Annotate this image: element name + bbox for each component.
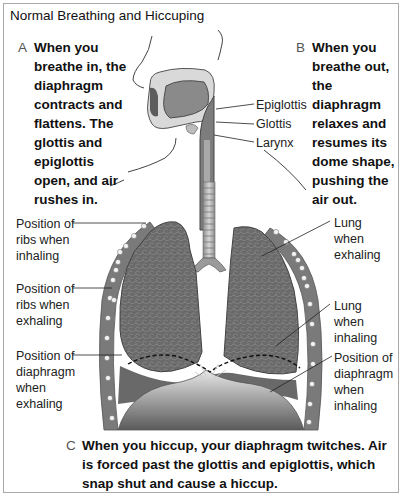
label-line: inhaling <box>334 330 377 346</box>
label-line: Position of <box>16 348 75 364</box>
label-line: inhaling <box>16 248 74 264</box>
label-line: when <box>334 314 377 330</box>
caption-b-line: breathe out, <box>312 57 403 76</box>
caption-a-line: contracts and <box>34 95 126 114</box>
caption-a-line: diaphragm <box>34 76 126 95</box>
label-line: Position of <box>16 281 74 297</box>
label-diaphragm-inhaling: Position of diaphragm when inhaling <box>334 350 393 414</box>
caption-b-line: pushing the <box>312 171 403 190</box>
label-line: inhaling <box>334 398 393 414</box>
label-line: Position of <box>16 216 74 232</box>
caption-b-line: relaxes and <box>312 114 403 133</box>
caption-a-line: flattens. The <box>34 114 126 133</box>
caption-a: A When you breathe in, the diaphragm con… <box>34 38 126 209</box>
label-line: ribs when <box>16 232 74 248</box>
caption-c-line: snap shut and cause a hiccup. <box>82 474 387 493</box>
label-line: diaphragm <box>16 364 75 380</box>
label-line: diaphragm <box>334 366 393 382</box>
caption-b-line: air out. <box>312 190 403 209</box>
label-line: Position of <box>334 350 393 366</box>
label-line: Lung <box>334 298 377 314</box>
label-ribs-exhaling: Position of ribs when exhaling <box>16 281 74 329</box>
label-epiglottis: Epiglottis <box>256 97 307 113</box>
caption-a-line: breathe in, the <box>34 57 126 76</box>
caption-c: C When you hiccup, your diaphragm twitch… <box>82 436 387 493</box>
caption-b-line: When you <box>312 38 403 57</box>
caption-a-letter: A <box>18 38 27 57</box>
label-line: when <box>334 231 381 247</box>
caption-c-line: When you hiccup, your diaphragm twitches… <box>82 436 387 455</box>
caption-b-letter: B <box>296 38 305 57</box>
caption-a-line: When you <box>34 38 126 57</box>
caption-c-line: is forced past the glottis and epiglotti… <box>82 455 387 474</box>
caption-b-line: the diaphragm <box>312 76 403 114</box>
label-line: exhaling <box>16 313 74 329</box>
label-line: when <box>334 382 393 398</box>
caption-a-line: epiglottis <box>34 152 126 171</box>
caption-a-line: rushes in. <box>34 190 126 209</box>
label-line: exhaling <box>16 396 75 412</box>
label-lung-exhaling: Lung when exhaling <box>334 215 381 263</box>
label-larynx: Larynx <box>256 135 294 151</box>
label-line: Lung <box>334 215 381 231</box>
caption-a-line: glottis and <box>34 133 126 152</box>
label-line: ribs when <box>16 297 74 313</box>
caption-b: B When you breathe out, the diaphragm re… <box>312 38 403 209</box>
label-diaphragm-exhaling: Position of diaphragm when exhaling <box>16 348 75 412</box>
label-glottis: Glottis <box>256 116 291 132</box>
label-lung-inhaling: Lung when inhaling <box>334 298 377 346</box>
caption-b-line: resumes its <box>312 133 403 152</box>
label-line: exhaling <box>334 247 381 263</box>
caption-c-letter: C <box>66 436 76 455</box>
caption-b-line: dome shape, <box>312 152 403 171</box>
label-ribs-inhaling: Position of ribs when inhaling <box>16 216 74 264</box>
caption-a-line: open, and air <box>34 171 126 190</box>
label-line: when <box>16 380 75 396</box>
